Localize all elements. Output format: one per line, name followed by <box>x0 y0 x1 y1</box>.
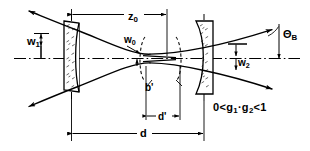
dimension-d <box>72 99 205 141</box>
mirror-left <box>64 14 79 99</box>
resonator-length-label: d <box>140 128 147 139</box>
diagram-canvas <box>0 0 310 151</box>
confocal-parameter-label: b' <box>145 83 154 93</box>
mirror-right <box>196 14 213 101</box>
inner-distance-label: d' <box>158 112 167 122</box>
angle-theta-b <box>268 24 279 59</box>
beam-divergence-angle-label: ΘB <box>283 29 297 42</box>
stability-condition-label: 0<g1·g2<1 <box>213 102 267 115</box>
spot-size-mirror2-label: w2 <box>238 58 250 69</box>
rayleigh-distance-label: z0 <box>128 11 138 24</box>
dimension-z0 <box>72 9 168 56</box>
beam-waist-label: w0 <box>124 35 136 46</box>
spot-size-mirror1-label: w1 <box>27 36 40 49</box>
optics-diagram-figure: z0 w1 w0 w2 ΘB b' d' d 0<g1·g2<1 <box>0 0 310 151</box>
